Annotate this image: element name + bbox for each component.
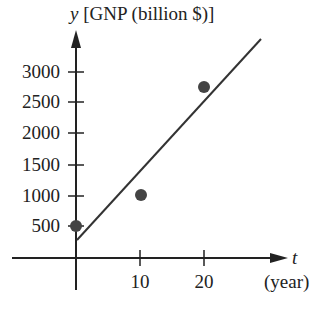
y-axis-label: [GNP (billion $)] [83, 3, 214, 24]
x-axis-variable: t [292, 248, 297, 267]
y-tick-label: 2000 [0, 123, 60, 142]
y-tick-label: 3000 [0, 62, 60, 81]
y-axis-variable: y [70, 3, 78, 24]
fitted-line [77, 39, 261, 240]
data-point [198, 81, 210, 93]
x-axis-arrow-icon [270, 253, 288, 263]
y-tick-label: 1500 [0, 155, 60, 174]
y-tick-label: 2500 [0, 92, 60, 111]
x-axis-label: (year) [264, 272, 309, 291]
x-tick-label: 10 [120, 272, 160, 291]
y-axis-arrow-icon [71, 30, 81, 48]
x-tick-label: 20 [184, 272, 224, 291]
y-tick-label: 1000 [0, 186, 60, 205]
data-point [70, 220, 82, 232]
y-tick-label: 500 [0, 216, 60, 235]
data-point [135, 189, 147, 201]
y-axis-title: y [GNP (billion $)] [70, 4, 214, 23]
